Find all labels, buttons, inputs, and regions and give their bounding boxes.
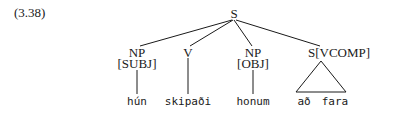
edge-s-np-subj: [140, 20, 232, 46]
node-np-subj-feature: [SUBJ]: [117, 57, 156, 70]
leaf-hun: hún: [127, 96, 147, 108]
node-root-s: S: [230, 7, 237, 20]
node-s-vcomp: S[VCOMP]: [308, 46, 370, 59]
leaf-honum: honum: [236, 96, 269, 108]
leaf-fara: fara: [322, 96, 349, 108]
edge-s-svcomp: [236, 20, 320, 46]
edge-s-v: [190, 20, 233, 46]
leaf-ad: að: [297, 96, 310, 108]
node-np-obj-feature: [OBJ]: [237, 57, 269, 70]
node-v: V: [183, 46, 192, 59]
collapsed-triangle: [296, 61, 346, 92]
leaf-skipadi: skipaði: [165, 96, 211, 108]
